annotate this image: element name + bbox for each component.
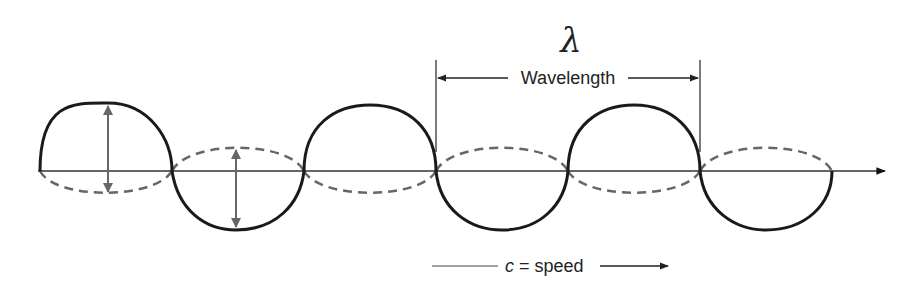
lambda-symbol: λ (558, 20, 582, 60)
dashed-lobe-4 (436, 148, 568, 171)
solid-lobe-1 (40, 103, 172, 171)
solid-lobe-4 (436, 171, 568, 230)
speed-text: = speed (514, 256, 584, 276)
speed-indicator: c = speed (432, 256, 668, 276)
solid-lobe-3 (304, 105, 436, 171)
wavelength-label: Wavelength (521, 68, 615, 88)
solid-lobe-2 (172, 171, 304, 230)
solid-lobe-5 (568, 105, 700, 171)
dashed-lobe-1 (40, 171, 172, 193)
speed-label: c = speed (505, 256, 584, 276)
solid-lobe-6 (700, 171, 832, 230)
dashed-lobe-5 (568, 171, 700, 193)
dashed-lobe-3 (304, 171, 436, 193)
wavelength-marker: Wavelength λ (436, 20, 700, 152)
speed-variable: c (505, 256, 514, 276)
dashed-lobe-2 (172, 148, 304, 171)
wave-diagram: Wavelength λ c = speed (0, 0, 921, 287)
dashed-lobe-6 (700, 148, 832, 171)
